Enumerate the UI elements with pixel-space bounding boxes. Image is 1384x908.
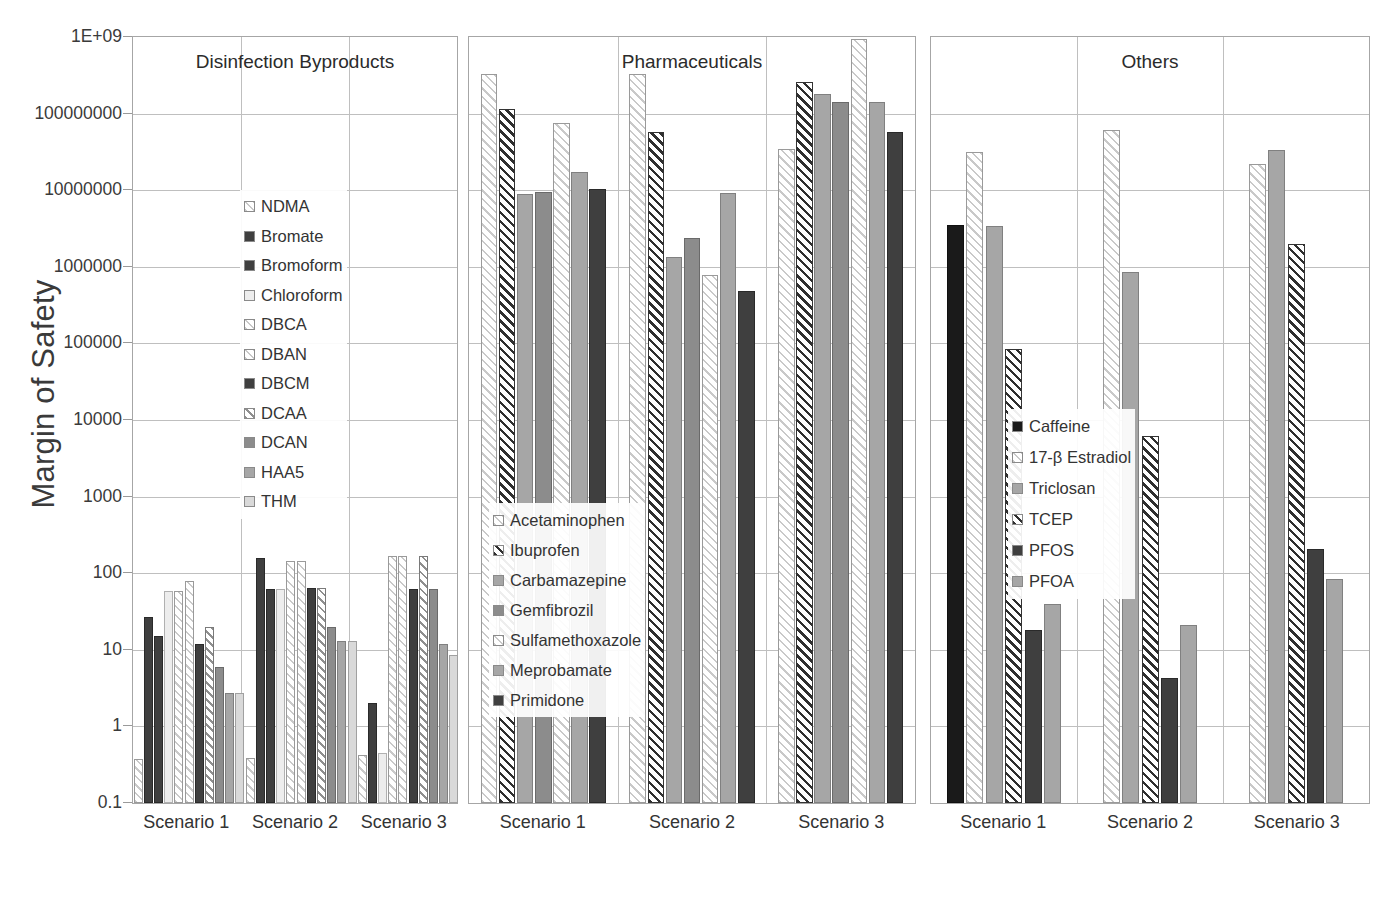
legend-item: Bromoform	[244, 251, 343, 281]
y-tick-label: 1000000	[54, 255, 122, 276]
bar	[388, 556, 397, 803]
bar	[235, 693, 244, 803]
legend-item: Carbamazepine	[493, 565, 641, 595]
bar	[297, 561, 306, 803]
bar	[1288, 244, 1305, 803]
bar	[327, 627, 336, 803]
legend-item: PFOA	[1012, 566, 1131, 597]
legend-item: Bromate	[244, 222, 343, 252]
bar	[215, 667, 224, 803]
legend-label: DCAA	[261, 404, 307, 423]
bar	[966, 152, 983, 803]
y-axis-tick-labels: 1E+0910000000010000000100000010000010000…	[36, 36, 132, 804]
legend-label: Triclosan	[1029, 479, 1095, 498]
y-tick-label: 1E+09	[71, 26, 122, 47]
legend-pharmaceuticals: AcetaminophenIbuprofenCarbamazepineGemfi…	[489, 503, 645, 717]
legend-item: Caffeine	[1012, 411, 1131, 442]
x-axis-label: Scenario 3	[349, 812, 458, 844]
y-tick-mark	[123, 649, 132, 650]
y-tick-label: 1	[112, 715, 122, 736]
y-tick-label: 100000000	[34, 102, 122, 123]
legend-label: TCEP	[1029, 510, 1073, 529]
legend-swatch-icon	[244, 378, 255, 389]
legend-swatch-icon	[493, 665, 504, 676]
legend-label: NDMA	[261, 197, 310, 216]
legend-item: HAA5	[244, 458, 343, 488]
y-tick-label: 100000	[64, 332, 122, 353]
legend-swatch-icon	[493, 575, 504, 586]
bar	[666, 257, 683, 803]
legend-item: DBAN	[244, 340, 343, 370]
bar	[648, 132, 665, 803]
panel-others: Others	[930, 36, 1370, 804]
plot-area	[931, 37, 1369, 803]
legend-label: PFOA	[1029, 572, 1074, 591]
bar	[869, 102, 886, 803]
chart-figure: Margin of Safety 1E+09100000000100000001…	[0, 0, 1384, 908]
bar	[1142, 436, 1159, 803]
legend-item: TCEP	[1012, 504, 1131, 535]
bar	[286, 561, 295, 803]
bar	[276, 589, 285, 803]
bar	[419, 556, 428, 803]
y-tick-mark	[123, 266, 132, 267]
legend-disinfection-byproducts: NDMABromateBromoformChloroformDBCADBANDB…	[240, 190, 347, 519]
x-axis-label: Scenario 3	[1223, 812, 1370, 844]
legend-item: DCAA	[244, 399, 343, 429]
legend-item: PFOS	[1012, 535, 1131, 566]
bar	[307, 588, 316, 803]
bar	[1025, 630, 1042, 803]
legend-item: NDMA	[244, 192, 343, 222]
legend-label: PFOS	[1029, 541, 1074, 560]
legend-item: Sulfamethoxazole	[493, 625, 641, 655]
legend-label: Primidone	[510, 691, 584, 710]
bar	[986, 226, 1003, 803]
x-axis-label: Scenario 2	[617, 812, 766, 844]
bar	[449, 655, 458, 803]
y-tick-mark	[123, 36, 132, 37]
bar	[1326, 579, 1343, 803]
y-tick-label: 10000000	[44, 179, 122, 200]
legend-item: DCAN	[244, 428, 343, 458]
y-tick-label: 0.1	[98, 792, 122, 813]
legend-swatch-icon	[244, 290, 255, 301]
y-tick-label: 10000	[73, 409, 122, 430]
bar	[164, 591, 173, 803]
bar	[205, 627, 214, 803]
legend-label: Sulfamethoxazole	[510, 631, 641, 650]
legend-swatch-icon	[493, 605, 504, 616]
legend-swatch-icon	[1012, 483, 1023, 494]
bar	[1307, 549, 1324, 803]
legend-label: THM	[261, 492, 297, 511]
bar	[947, 225, 964, 803]
bar	[154, 636, 163, 803]
legend-swatch-icon	[1012, 452, 1023, 463]
legend-swatch-icon	[244, 408, 255, 419]
legend-item: Chloroform	[244, 281, 343, 311]
bar	[398, 556, 407, 803]
bar	[1044, 604, 1061, 803]
legend-label: DBAN	[261, 345, 307, 364]
bar	[317, 588, 326, 803]
y-tick-mark	[123, 802, 132, 803]
legend-item: DBCA	[244, 310, 343, 340]
bar-group	[133, 37, 245, 803]
bar	[702, 275, 719, 803]
legend-swatch-icon	[493, 635, 504, 646]
bar	[225, 693, 234, 803]
legend-item: Primidone	[493, 685, 641, 715]
legend-swatch-icon	[244, 496, 255, 507]
legend-swatch-icon	[1012, 545, 1023, 556]
legend-swatch-icon	[493, 545, 504, 556]
y-tick-mark	[123, 189, 132, 190]
bar	[796, 82, 813, 803]
bar	[1161, 678, 1178, 803]
y-tick-mark	[123, 496, 132, 497]
legend-item: Gemfibrozil	[493, 595, 641, 625]
bar	[778, 149, 795, 803]
legend-swatch-icon	[244, 437, 255, 448]
legend-label: Chloroform	[261, 286, 343, 305]
legend-label: DCAN	[261, 433, 308, 452]
bar	[439, 644, 448, 803]
legend-item: Meprobamate	[493, 655, 641, 685]
